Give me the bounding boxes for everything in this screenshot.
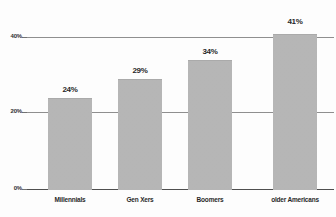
bar-millennials[interactable] [48, 98, 92, 190]
bar-older-americans[interactable] [273, 34, 317, 190]
y-tick-label-0: 0% [0, 185, 22, 192]
tick-stub-40 [22, 37, 27, 38]
bar-value-millennials: 24% [48, 85, 92, 94]
category-label-older-americans: older Americans [253, 196, 336, 204]
category-label-boomers: Boomers [168, 196, 252, 204]
y-tick-label-40: 40% [0, 33, 22, 40]
bar-gen-xers[interactable] [118, 79, 162, 190]
tick-stub-20 [22, 112, 27, 113]
bar-value-gen-xers: 29% [118, 66, 162, 75]
tick-stub-0 [22, 189, 27, 190]
bar-value-boomers: 34% [188, 47, 232, 56]
bar-chart: 40% 20% 0% 24% Millennials 29% Gen Xers … [0, 0, 336, 217]
bar-boomers[interactable] [188, 60, 232, 190]
plot-area: 40% 20% 0% 24% Millennials 29% Gen Xers … [0, 0, 336, 217]
bar-value-older-americans: 41% [273, 17, 317, 26]
y-tick-label-20: 20% [0, 108, 22, 115]
